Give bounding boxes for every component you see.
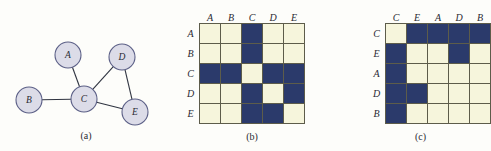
matrix-b-cell-e-c — [242, 104, 263, 124]
matrix-c-cell-e-b — [470, 44, 491, 64]
matrix-c-table: C E A D B CEADB — [368, 5, 491, 124]
matrix-b-row: B — [182, 44, 305, 64]
matrix-b-cell-c-e — [284, 64, 305, 84]
matrix-c-cell-e-d — [449, 44, 470, 64]
matrix-c-cell-b-a — [428, 104, 449, 124]
matrix-b-cell-d-d — [263, 84, 284, 104]
graph-node-b[interactable]: B — [16, 87, 42, 113]
matrix-c-cell-a-d — [449, 64, 470, 84]
matrix-c-col-header: C — [386, 5, 407, 24]
matrix-c-row: D — [368, 84, 491, 104]
matrix-c-wrap: C E A D B CEADB — [368, 5, 491, 124]
graph-node-a[interactable]: A — [55, 42, 81, 68]
matrix-c-header-row: C E A D B — [368, 5, 491, 24]
matrix-c-row-header: C — [368, 24, 386, 44]
matrix-b-corner — [182, 5, 200, 24]
graph-node-label: B — [26, 95, 32, 105]
matrix-b-row-header: A — [182, 24, 200, 44]
matrix-c-cell-c-d — [449, 24, 470, 44]
graph-node-label: E — [131, 107, 138, 117]
matrix-b-cell-c-b — [221, 64, 242, 84]
matrix-b-cell-c-a — [200, 64, 221, 84]
matrix-b-cell-b-a — [200, 44, 221, 64]
matrix-b-row: C — [182, 64, 305, 84]
matrix-b-col-header: B — [221, 5, 242, 24]
graph-edge-d-e — [125, 70, 132, 100]
matrix-c-row: A — [368, 64, 491, 84]
graph-diagram: ABCDE — [0, 0, 172, 134]
matrix-c-cell-c-e — [407, 24, 428, 44]
matrix-c-body: CEADB — [368, 24, 491, 124]
matrix-c-row: E — [368, 44, 491, 64]
matrix-c-cell-a-c — [386, 64, 407, 84]
matrix-c-cell-d-b — [470, 84, 491, 104]
matrix-b-cell-d-a — [200, 84, 221, 104]
graph-node-c[interactable]: C — [71, 86, 97, 112]
matrix-b-body: ABCDE — [182, 24, 305, 124]
matrix-b-cell-e-a — [200, 104, 221, 124]
matrix-c-row: C — [368, 24, 491, 44]
graph-node-e[interactable]: E — [122, 99, 148, 125]
graph-node-label: A — [64, 50, 71, 60]
graph-edge-b-c — [42, 99, 71, 100]
matrix-b-wrap: A B C D E ABCDE — [182, 5, 305, 124]
matrix-c-cell-c-a — [428, 24, 449, 44]
matrix-c-col-header: A — [428, 5, 449, 24]
matrix-c-row-header: B — [368, 104, 386, 124]
matrix-b-cell-c-d — [263, 64, 284, 84]
matrix-b-cell-b-d — [263, 44, 284, 64]
matrix-b-cell-b-b — [221, 44, 242, 64]
matrix-b-row-header: D — [182, 84, 200, 104]
matrix-c-cell-c-b — [470, 24, 491, 44]
panel-graph: ABCDE (a) — [0, 0, 172, 151]
matrix-b-cell-e-d — [263, 104, 284, 124]
matrix-c-cell-d-d — [449, 84, 470, 104]
matrix-b-cell-a-c — [242, 24, 263, 44]
graph-node-label: C — [81, 94, 88, 104]
matrix-b-table: A B C D E ABCDE — [182, 5, 305, 124]
matrix-b-col-header: A — [200, 5, 221, 24]
matrix-c-cell-d-a — [428, 84, 449, 104]
matrix-b-cell-d-e — [284, 84, 305, 104]
graph-node-d[interactable]: D — [109, 44, 135, 70]
matrix-c-cell-e-a — [428, 44, 449, 64]
matrix-b-cell-a-b — [221, 24, 242, 44]
matrix-b-row-header: C — [182, 64, 200, 84]
matrix-c-col-header: B — [470, 5, 491, 24]
matrix-c-cell-c-c — [386, 24, 407, 44]
matrix-b-row: A — [182, 24, 305, 44]
matrix-c-cell-a-a — [428, 64, 449, 84]
caption-a: (a) — [0, 130, 172, 141]
matrix-b-row: E — [182, 104, 305, 124]
matrix-c-cell-b-d — [449, 104, 470, 124]
caption-b: (b) — [172, 131, 332, 142]
matrix-c-row-header: E — [368, 44, 386, 64]
matrix-b-cell-a-a — [200, 24, 221, 44]
matrix-b-row-header: E — [182, 104, 200, 124]
matrix-c-cell-e-c — [386, 44, 407, 64]
matrix-c-col-header: D — [449, 5, 470, 24]
matrix-b-cell-e-b — [221, 104, 242, 124]
matrix-c-cell-b-b — [470, 104, 491, 124]
matrix-b-cell-a-d — [263, 24, 284, 44]
matrix-c-cell-a-e — [407, 64, 428, 84]
matrix-b-cell-c-c — [242, 64, 263, 84]
matrix-c-cell-a-b — [470, 64, 491, 84]
figure-root: ABCDE (a) A B C D E ABCDE (b) — [0, 0, 491, 151]
matrix-c-cell-b-e — [407, 104, 428, 124]
matrix-c-corner — [368, 5, 386, 24]
matrix-b-cell-a-e — [284, 24, 305, 44]
matrix-c-cell-d-e — [407, 84, 428, 104]
matrix-b-cell-d-b — [221, 84, 242, 104]
matrix-c-cell-b-c — [386, 104, 407, 124]
matrix-c-row: B — [368, 104, 491, 124]
matrix-b-cell-b-e — [284, 44, 305, 64]
matrix-b-row-header: B — [182, 44, 200, 64]
caption-c: (c) — [350, 131, 491, 142]
matrix-b-col-header: C — [242, 5, 263, 24]
matrix-c-row-header: A — [368, 64, 386, 84]
matrix-b-col-header: D — [263, 5, 284, 24]
matrix-b-row: D — [182, 84, 305, 104]
matrix-c-row-header: D — [368, 84, 386, 104]
matrix-b-header-row: A B C D E — [182, 5, 305, 24]
